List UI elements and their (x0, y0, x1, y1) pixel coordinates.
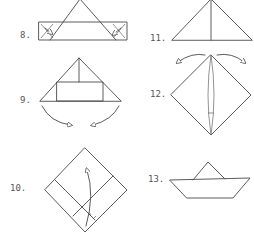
step-9-figure (40, 58, 121, 125)
step-label-12: 12. (150, 89, 166, 99)
curved-arrow-left-icon (42, 106, 70, 125)
triangle-outline (40, 58, 121, 101)
step-label-8: 8. (20, 30, 31, 40)
curved-arrow-right-icon (217, 54, 244, 62)
curved-arrow-right-icon (93, 106, 119, 125)
triangle-outline (50, 0, 116, 40)
diamond-outline (45, 148, 127, 232)
step-13-figure (170, 162, 250, 198)
center-slit (208, 55, 214, 135)
step-10-figure (45, 148, 127, 232)
step-12-figure (171, 54, 251, 135)
step-label-10: 10. (10, 183, 26, 193)
step-label-11: 11. (150, 33, 166, 43)
step-label-9: 9. (20, 95, 31, 105)
step-11-figure (172, 0, 252, 40)
curved-arrow-up-icon (86, 170, 91, 226)
fold-corner-right-icon (113, 24, 125, 38)
diamond-outline (171, 55, 251, 135)
boat-sail (193, 162, 225, 180)
band-rectangle (57, 82, 103, 101)
fold-corner-left-icon (41, 24, 53, 38)
triangle-outline (172, 0, 252, 40)
step-8-figure (39, 0, 127, 40)
step-label-13: 13. (148, 174, 164, 184)
boat-hull (170, 178, 250, 198)
origami-diagram: 8. 9. 10. 11. 12. 13. (0, 0, 254, 243)
curved-arrow-left-icon (178, 54, 205, 62)
